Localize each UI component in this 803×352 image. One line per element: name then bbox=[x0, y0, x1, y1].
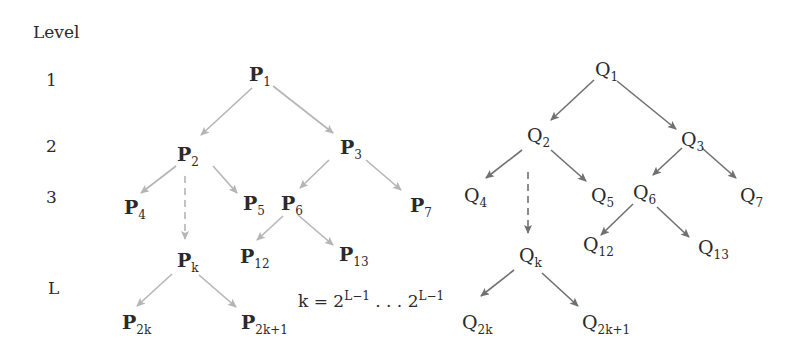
edge-pk-p2k1 bbox=[199, 275, 236, 307]
edge-p1-p2 bbox=[201, 88, 252, 135]
node-q7: Q7 bbox=[740, 186, 763, 209]
level-3-label: 3 bbox=[46, 189, 57, 206]
edge-q3-q6 bbox=[653, 148, 682, 175]
node-pk: Pk bbox=[177, 251, 199, 274]
node-q4: Q4 bbox=[464, 186, 487, 209]
node-p4: P4 bbox=[124, 198, 146, 221]
level-2-label: 2 bbox=[46, 138, 57, 155]
level-l-label: L bbox=[48, 280, 59, 297]
node-p13: P13 bbox=[339, 245, 369, 268]
edge-p2-p4 bbox=[141, 166, 176, 193]
node-q1: Q1 bbox=[595, 60, 618, 83]
edge-pk-p2k bbox=[137, 274, 172, 306]
edge-p6-p12 bbox=[257, 216, 283, 240]
edge-q1-q3 bbox=[617, 81, 676, 129]
node-p2k1: P2k+1 bbox=[241, 313, 288, 336]
node-q5: Q5 bbox=[591, 186, 614, 209]
edge-q3-q7 bbox=[702, 148, 736, 178]
level-header: Level bbox=[33, 24, 79, 41]
edge-q1-q2 bbox=[551, 80, 594, 120]
node-q2: Q2 bbox=[527, 126, 550, 149]
edge-qk-q2k1 bbox=[542, 273, 578, 306]
edge-q6-q13 bbox=[657, 207, 689, 237]
node-q6: Q6 bbox=[633, 183, 656, 206]
edge-p1-p3 bbox=[273, 86, 333, 133]
node-q2k: Q2k bbox=[462, 313, 492, 336]
level-1-label: 1 bbox=[46, 72, 57, 89]
k-range-formula: k = 2L−1 . . . 2L−1 bbox=[298, 290, 444, 310]
node-p12: P12 bbox=[240, 247, 270, 270]
node-q2k1: Q2k+1 bbox=[582, 313, 630, 336]
node-p2k: P2k bbox=[122, 313, 151, 336]
edge-p2-p5 bbox=[213, 166, 237, 193]
node-q3: Q3 bbox=[681, 130, 704, 153]
node-p1: P1 bbox=[249, 65, 271, 88]
edge-q2-q5 bbox=[551, 150, 586, 181]
node-p2: P2 bbox=[177, 145, 199, 168]
edge-p3-p6 bbox=[300, 160, 329, 188]
node-p6: P6 bbox=[281, 194, 303, 217]
node-q13: Q13 bbox=[698, 238, 729, 261]
node-q12: Q12 bbox=[583, 235, 614, 258]
edge-qk-q2k bbox=[481, 270, 514, 296]
node-p3: P3 bbox=[340, 138, 362, 161]
edge-p6-p13 bbox=[298, 215, 333, 245]
node-p5: P5 bbox=[243, 194, 265, 217]
edge-q2-q4 bbox=[486, 150, 522, 178]
node-p7: P7 bbox=[410, 196, 432, 219]
edge-p3-p7 bbox=[366, 160, 401, 190]
node-qk: Qk bbox=[519, 246, 542, 269]
